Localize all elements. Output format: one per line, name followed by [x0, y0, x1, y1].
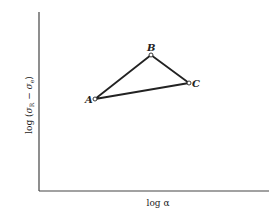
svg-text:log (σR − σe): log (σR − σe) — [24, 76, 35, 134]
x-axis-label: log α — [147, 198, 170, 208]
diagram-canvas: A B C log α log (σR − σe) — [0, 0, 274, 223]
y-axis-label: log (σR − σe) — [24, 76, 35, 134]
point-c-marker — [187, 81, 191, 85]
point-a-marker — [93, 97, 97, 101]
triangle-abc — [95, 55, 189, 99]
point-a-label: A — [84, 94, 93, 105]
point-b-label: B — [146, 42, 155, 53]
point-c-label: C — [192, 78, 200, 89]
point-b-marker — [149, 53, 153, 57]
